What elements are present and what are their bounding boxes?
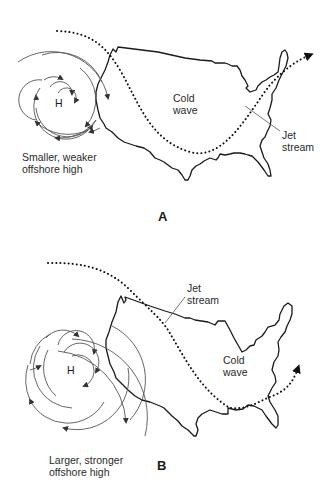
high-caption-line2-a: offshore high <box>22 163 97 175</box>
high-pressure-circulation-b <box>26 326 148 436</box>
cold-wave-line2-b: wave <box>223 366 248 378</box>
cold-wave-label-b: Cold wave <box>223 354 248 378</box>
high-pressure-circulation-a <box>18 52 108 140</box>
cold-wave-line2-a: wave <box>173 104 198 116</box>
high-caption-b: Larger, stronger offshore high <box>49 454 123 478</box>
jet-stream-leader-b <box>165 297 185 323</box>
high-caption-line1-b: Larger, stronger <box>49 454 123 466</box>
jet-stream-line1-a: Jet <box>282 129 314 141</box>
jet-stream-leader-a <box>245 106 280 131</box>
panel-letter-b: B <box>157 458 166 473</box>
cold-wave-label-a: Cold wave <box>173 92 198 116</box>
cold-wave-line1-b: Cold <box>223 354 248 366</box>
jet-stream-line2-a: stream <box>282 141 314 153</box>
high-caption-a: Smaller, weaker offshore high <box>22 151 97 175</box>
panel-letter-a: A <box>158 209 167 224</box>
high-caption-line2-b: offshore high <box>49 466 123 478</box>
high-caption-line1-a: Smaller, weaker <box>22 151 97 163</box>
high-pressure-label-b: H <box>67 364 75 376</box>
jet-stream-line1-b: Jet <box>187 282 219 294</box>
high-pressure-label-a: H <box>55 97 63 109</box>
panel-a-diagram <box>0 0 322 486</box>
jet-stream-path-b <box>48 263 298 408</box>
jet-stream-label-b: Jet stream <box>187 282 219 306</box>
jet-stream-line2-b: stream <box>187 294 219 306</box>
jet-stream-label-a: Jet stream <box>282 129 314 153</box>
cold-wave-line1-a: Cold <box>173 92 198 104</box>
